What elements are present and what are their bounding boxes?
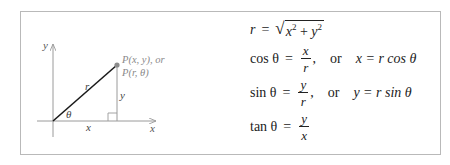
sin-comma: , <box>310 85 314 101</box>
cos-equals: = <box>285 51 293 67</box>
vertical-leg-label: y <box>119 89 125 101</box>
hypotenuse-line <box>53 65 117 121</box>
cos-or: or <box>330 51 342 67</box>
point-label-polar: P(r, θ) <box>121 67 149 79</box>
x-axis-label: x <box>149 122 155 134</box>
cos-comma: , <box>313 51 317 67</box>
sin-denominator: r <box>301 93 306 108</box>
tan-equals: = <box>283 119 291 135</box>
formula-r: r = √ x2 + y2 <box>250 20 324 40</box>
cos-alt-form: x = r cos θ <box>356 51 417 67</box>
formula-cos: cos θ = x r , or x = r cos θ <box>250 44 416 74</box>
formula-sin: sin θ = y r , or y = r sin θ <box>250 78 412 108</box>
exp-y: 2 <box>318 22 323 32</box>
tan-denominator: x <box>301 127 307 142</box>
sin-numerator: y <box>298 78 308 93</box>
right-angle-marker <box>108 113 117 121</box>
sin-lhs: sin θ <box>250 85 277 101</box>
r-equals: = <box>261 22 269 38</box>
point-label-cartesian: P(x, y), or <box>121 54 165 66</box>
tan-numerator: y <box>299 112 309 127</box>
angle-theta-label: θ <box>66 108 72 120</box>
horizontal-leg-label: x <box>85 121 91 133</box>
cos-denominator: r <box>303 59 308 74</box>
y-axis-label: y <box>42 39 48 51</box>
plus-sign: + <box>300 24 308 39</box>
point-p <box>114 62 119 67</box>
sin-alt-form: y = r sin θ <box>353 85 411 101</box>
tan-lhs: tan θ <box>250 119 277 135</box>
exp-x: 2 <box>292 22 297 32</box>
cos-lhs: cos θ <box>250 51 279 67</box>
square-root: √ x2 + y2 <box>275 20 324 40</box>
hypotenuse-label: r <box>85 80 90 92</box>
polar-coordinates-diagram: y x r y x θ P(x, y), or P(r, θ) <box>0 0 240 165</box>
formula-tan: tan θ = y x <box>250 112 311 142</box>
cos-numerator: x <box>301 44 311 59</box>
radical-sign-icon: √ <box>275 20 284 37</box>
sin-fraction: y r <box>298 78 308 108</box>
sin-equals: = <box>283 85 291 101</box>
sin-or: or <box>328 85 340 101</box>
tan-fraction: y x <box>299 112 309 142</box>
cos-fraction: x r <box>301 44 311 74</box>
r-lhs: r <box>250 22 255 38</box>
